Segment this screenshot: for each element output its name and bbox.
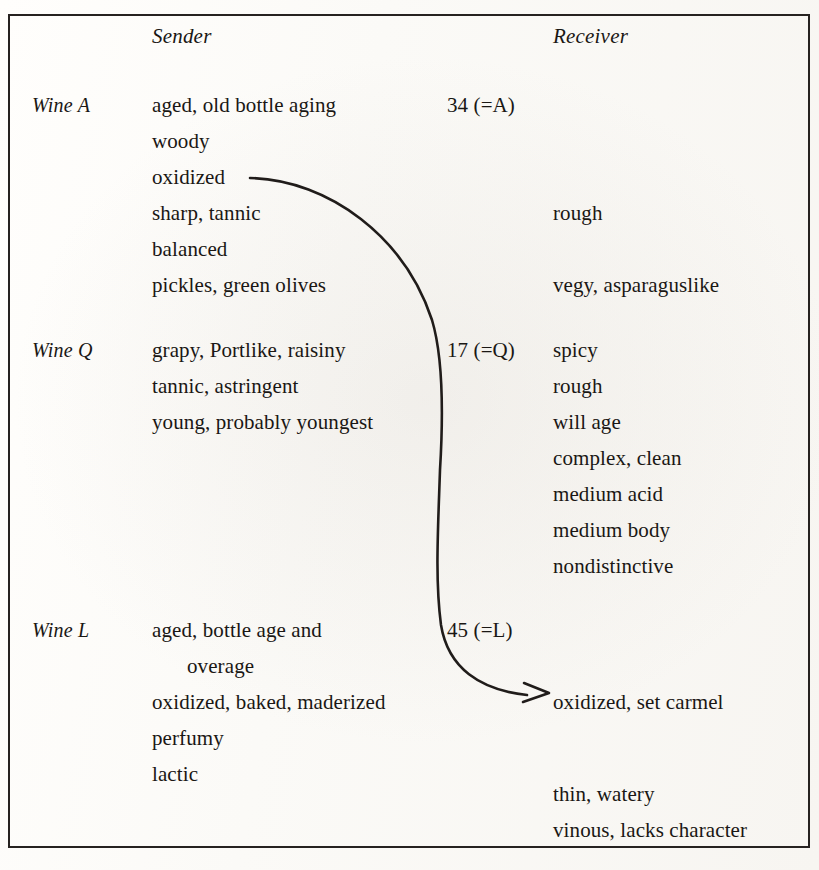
sender-item: perfumy [152,728,224,749]
wine-label-q: Wine Q [32,340,93,360]
sender-item: tannic, astringent [152,376,298,397]
sender-item: young, probably youngest [152,412,373,433]
sender-item: aged, old bottle aging [152,95,336,116]
wine-label-a: Wine A [32,95,90,115]
receiver-item: will age [553,412,621,433]
sender-item: oxidized, baked, maderized [152,692,386,713]
receiver-item-oxidized-carmel: oxidized, set carmel [553,692,724,713]
receiver-item: rough [553,203,603,224]
receiver-item: spicy [553,340,598,361]
receiver-item: thin, watery [553,784,655,805]
sender-item: sharp, tannic [152,203,261,224]
receiver-item: medium body [553,520,670,541]
receiver-item: nondistinctive [553,556,673,577]
wine-code-a: 34 (=A) [447,95,515,116]
sender-item: aged, bottle age and [152,620,322,641]
sender-item: grapy, Portlike, raisiny [152,340,346,361]
receiver-item: complex, clean [553,448,682,469]
sender-item: lactic [152,764,198,785]
figure-page: Sender Receiver Wine A 34 (=A) aged, old… [0,0,819,870]
wine-label-l: Wine L [32,620,89,640]
figure-border [8,14,810,848]
wine-code-l: 45 (=L) [447,620,513,641]
sender-item: woody [152,131,210,152]
receiver-item: rough [553,376,603,397]
receiver-item: vegy, asparaguslike [553,275,719,296]
sender-item-oxidized: oxidized [152,167,225,188]
column-header-receiver: Receiver [553,26,628,47]
receiver-item: medium acid [553,484,663,505]
column-header-sender: Sender [152,26,212,47]
sender-item: balanced [152,239,227,260]
receiver-item: vinous, lacks character [553,820,747,841]
sender-item: pickles, green olives [152,275,326,296]
sender-item-continuation: overage [152,656,254,677]
wine-code-q: 17 (=Q) [447,340,515,361]
